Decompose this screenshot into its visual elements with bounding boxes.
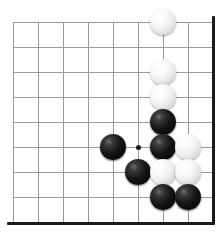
black-stone[interactable] [150,109,176,135]
white-stone[interactable] [175,134,201,160]
board-edge-bottom [7,222,215,225]
white-stone[interactable] [150,84,176,110]
go-board[interactable] [0,0,221,239]
white-stone[interactable] [175,159,201,185]
black-stone[interactable] [150,184,176,210]
star-point [136,145,141,150]
grid-line-vertical [63,22,64,222]
white-stone[interactable] [150,59,176,85]
grid-line-vertical [38,22,39,222]
grid-line-vertical [138,22,139,222]
board-edge-right [212,16,215,224]
black-stone[interactable] [175,184,201,210]
white-stone[interactable] [150,9,176,35]
black-stone[interactable] [100,134,126,160]
white-stone[interactable] [150,159,176,185]
grid-line-vertical [88,22,89,222]
goban-surface[interactable] [0,0,221,239]
black-stone[interactable] [125,159,151,185]
grid-line-vertical [113,22,114,222]
black-stone[interactable] [150,134,176,160]
grid-line-vertical [13,22,14,222]
